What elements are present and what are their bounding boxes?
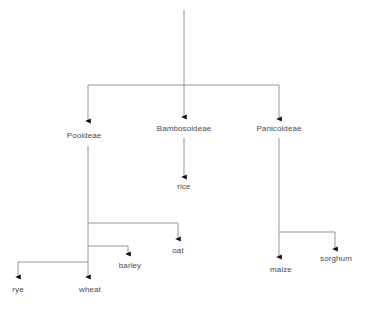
phylogenetic-tree-diagram: Pooideae Bambosoideae Panicoideae rice o… bbox=[0, 0, 367, 311]
node-label-oat: oat bbox=[172, 246, 183, 256]
branch-to-sorghum bbox=[279, 232, 335, 249]
node-label-pooideae: Pooideae bbox=[67, 131, 102, 141]
node-label-panicoideae: Panicoideae bbox=[256, 124, 301, 134]
branch-to-rye bbox=[18, 262, 88, 277]
node-label-rye: rye bbox=[12, 285, 23, 295]
branch-to-barley bbox=[88, 246, 128, 254]
node-label-wheat: wheat bbox=[79, 285, 101, 295]
tree-connector-lines bbox=[0, 0, 367, 311]
branch-to-oat bbox=[88, 223, 178, 239]
node-label-barley: barley bbox=[119, 261, 141, 271]
node-label-sorghum: sorghum bbox=[320, 254, 352, 264]
node-label-bambosoideae: Bambosoideae bbox=[157, 124, 212, 134]
node-label-rice: rice bbox=[177, 182, 190, 192]
node-label-maize: maize bbox=[270, 265, 292, 275]
